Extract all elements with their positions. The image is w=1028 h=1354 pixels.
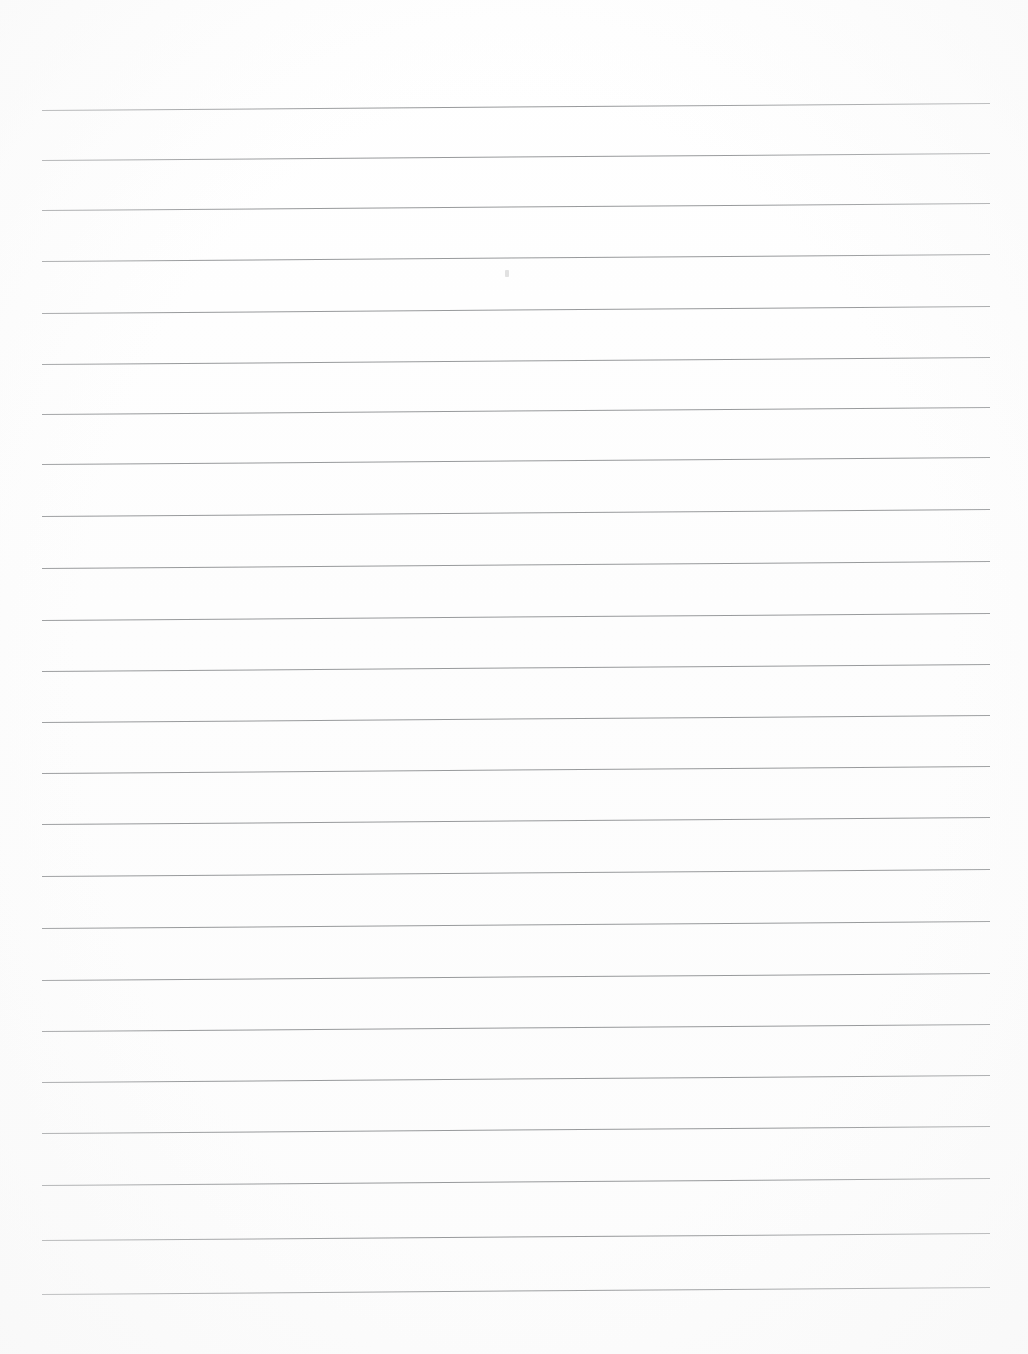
- ruled-line: [42, 869, 990, 877]
- ruled-line: [42, 613, 990, 621]
- ruled-line: [42, 715, 990, 723]
- ruled-line: [42, 1178, 990, 1186]
- ruled-line: [42, 254, 990, 262]
- ruled-line: [42, 1287, 990, 1295]
- ruled-line: [42, 1233, 990, 1241]
- ruled-line: [42, 203, 990, 211]
- ruled-line: [42, 153, 990, 161]
- ruled-line: [42, 306, 990, 314]
- ruled-line: [42, 817, 990, 825]
- ruled-line: [42, 1126, 990, 1134]
- ruled-line: [42, 509, 990, 517]
- ruled-line: [42, 407, 990, 415]
- scanned-page: [0, 0, 1028, 1354]
- scan-speck-artifact: [505, 270, 509, 277]
- ruled-line: [42, 1075, 990, 1083]
- ruled-line: [42, 357, 990, 365]
- ruled-line: [42, 921, 990, 929]
- ruled-line: [42, 766, 990, 774]
- ruled-line: [42, 973, 990, 981]
- ruled-lines-area: [0, 0, 1028, 1354]
- ruled-line: [42, 561, 990, 569]
- ruled-line: [42, 664, 990, 672]
- ruled-line: [42, 457, 990, 465]
- ruled-line: [42, 1024, 990, 1032]
- ruled-line: [42, 103, 990, 111]
